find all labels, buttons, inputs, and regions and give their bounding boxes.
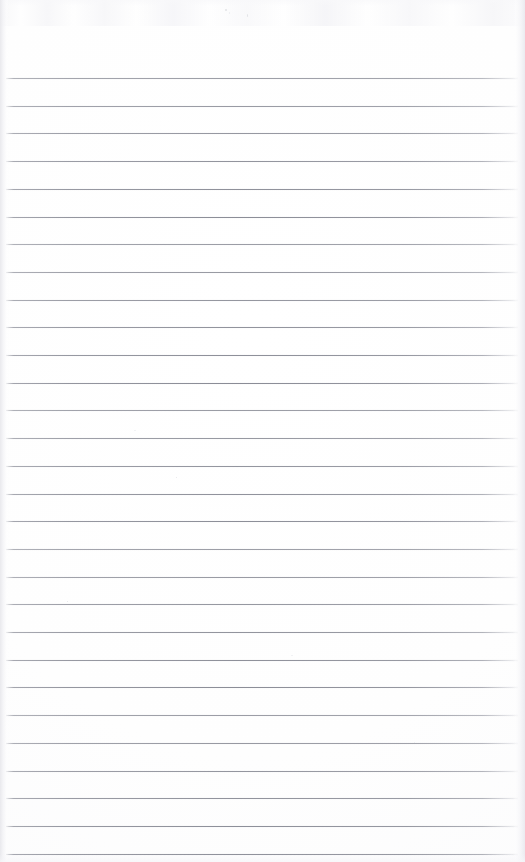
rule-line xyxy=(6,133,518,134)
rule-line xyxy=(6,715,518,716)
rule-line xyxy=(6,494,518,495)
rule-line xyxy=(6,798,518,799)
rule-line xyxy=(6,272,518,273)
rule-line xyxy=(6,604,518,605)
rule-line xyxy=(6,217,518,218)
rule-line xyxy=(6,771,518,772)
rule-line xyxy=(6,300,518,301)
rule-line xyxy=(6,466,518,467)
rule-line xyxy=(6,189,518,190)
rule-line xyxy=(6,826,518,827)
rule-line xyxy=(6,577,518,578)
rule-line xyxy=(6,632,518,633)
rule-line xyxy=(6,106,518,107)
rule-line xyxy=(6,660,518,661)
ruled-lines-layer xyxy=(0,0,525,862)
rule-line xyxy=(6,743,518,744)
rule-line xyxy=(6,78,518,79)
rule-line xyxy=(6,161,518,162)
rule-line xyxy=(6,244,518,245)
rule-line xyxy=(6,521,518,522)
rule-line xyxy=(6,383,518,384)
rule-line xyxy=(6,355,518,356)
rule-line xyxy=(6,410,518,411)
rule-line xyxy=(6,438,518,439)
rule-line xyxy=(6,549,518,550)
rule-line xyxy=(6,854,518,855)
rule-line xyxy=(6,687,518,688)
scanned-page xyxy=(0,0,525,862)
rule-line xyxy=(6,327,518,328)
